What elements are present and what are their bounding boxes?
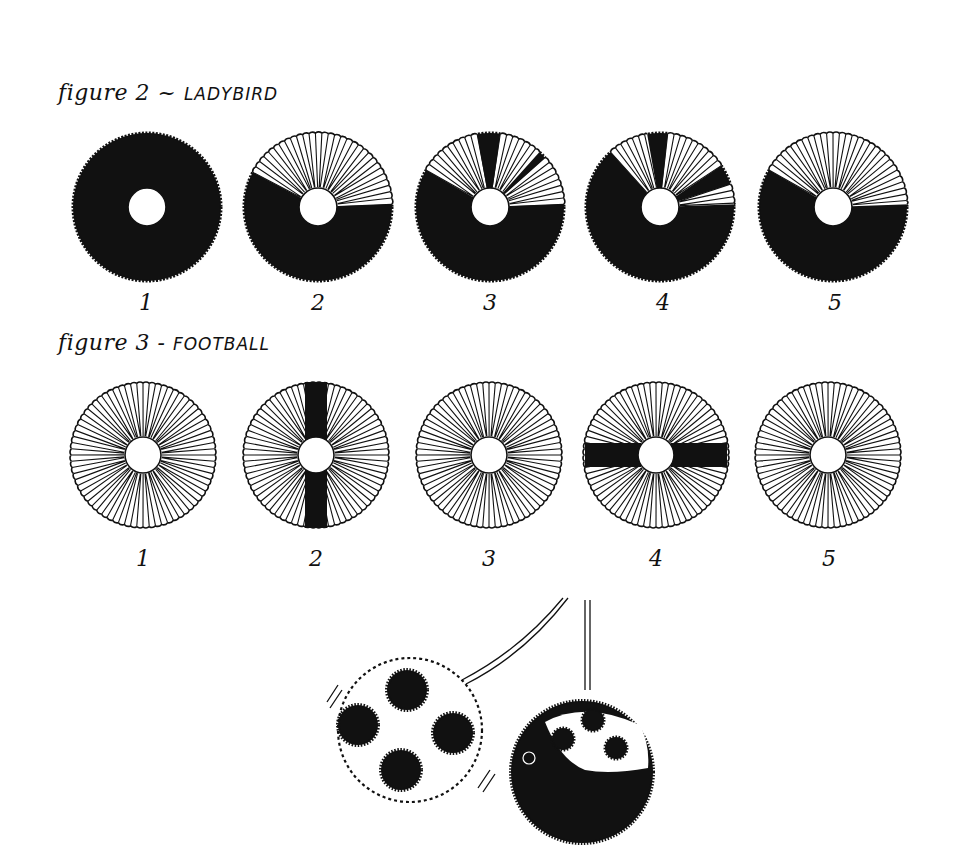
ladybird-pompom — [511, 701, 653, 843]
ladybird-disc-step-4 — [586, 131, 736, 281]
football-disc-step-4 — [583, 382, 729, 528]
ladybird-eye-icon — [523, 752, 535, 764]
ladybird-disc-step-2 — [244, 131, 394, 281]
ladybird-disc-step-5 — [759, 131, 909, 281]
illustration-canvas — [0, 0, 959, 864]
ladybird-disc-step-3 — [416, 132, 566, 281]
football-pompom — [327, 658, 495, 802]
football-disc-step-3 — [416, 382, 562, 528]
finished-pompoms — [327, 598, 653, 843]
football-disc-step-5 — [755, 382, 901, 528]
football-disc-step-1 — [70, 382, 216, 528]
football-disc-step-2 — [243, 382, 389, 528]
ladybird-disc-step-1 — [73, 133, 221, 281]
